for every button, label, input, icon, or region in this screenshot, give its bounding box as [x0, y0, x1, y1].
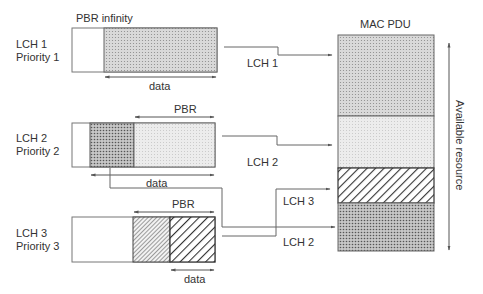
lch1-pbr-label: PBR infinity — [76, 12, 133, 25]
diagram-canvas — [0, 0, 483, 294]
lch3-buffer — [72, 217, 215, 262]
lch3-priority: Priority 3 — [16, 240, 59, 253]
lch2-priority: Priority 2 — [16, 145, 59, 158]
connector-label-lch1: LCH 1 — [247, 57, 278, 70]
mac-pdu — [338, 35, 434, 251]
lch1-data-label: data — [149, 80, 170, 93]
lch2-pbr-label: PBR — [174, 103, 197, 116]
connector-label-lch2: LCH 2 — [247, 156, 278, 169]
lch2-buffer — [72, 123, 215, 167]
available-resource-label: Available resource — [454, 100, 466, 190]
lch1-name: LCH 1 — [16, 38, 47, 51]
connector-label-lch2-remaining: LCH 2 — [283, 236, 314, 249]
lch1-priority: Priority 1 — [16, 51, 59, 64]
lch2-name: LCH 2 — [16, 132, 47, 145]
lch3-pbr-label: PBR — [172, 198, 195, 211]
lch2-connector — [222, 136, 332, 145]
connector-label-lch3: LCH 3 — [283, 195, 314, 208]
lch2-data-label: data — [146, 177, 167, 190]
lch3-name: LCH 3 — [16, 227, 47, 240]
lch1-buffer — [72, 28, 217, 72]
mac-pdu-title: MAC PDU — [360, 18, 411, 31]
lch1-connector — [224, 47, 332, 55]
lch3-data-label: data — [184, 273, 205, 286]
